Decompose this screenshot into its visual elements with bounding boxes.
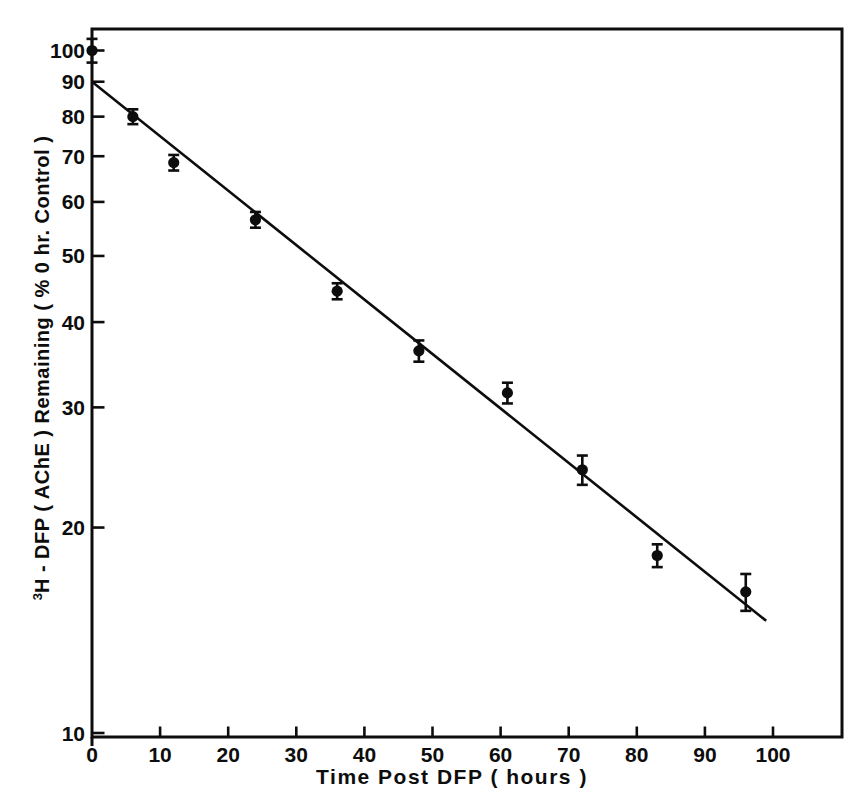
data-point-marker: [332, 286, 343, 297]
data-point-marker: [86, 45, 97, 56]
y-tick-label: 40: [62, 311, 85, 334]
x-tick-label: 20: [217, 743, 240, 766]
data-point-marker: [127, 111, 138, 122]
chart-svg: 1009080706050403020100102030405060708090…: [0, 0, 868, 809]
y-tick-label: 100: [50, 39, 85, 62]
x-tick-label: 80: [625, 743, 648, 766]
data-point-marker: [168, 157, 179, 168]
y-tick-label: 90: [62, 70, 85, 93]
y-tick-label: 60: [62, 190, 85, 213]
x-tick-label: 40: [353, 743, 376, 766]
y-tick-label: 50: [62, 244, 85, 267]
data-point-marker: [250, 214, 261, 225]
data-point-marker: [502, 387, 513, 398]
y-axis-title: 3H - DFP ( AChE ) Remaining ( % 0 hr. Co…: [30, 136, 54, 601]
y-tick-label: 30: [62, 396, 85, 419]
x-tick-label: 10: [148, 743, 171, 766]
y-tick-label: 80: [62, 105, 85, 128]
fit-line: [92, 82, 766, 621]
x-tick-label: 0: [86, 743, 98, 766]
y-tick-label: 10: [62, 722, 85, 745]
x-tick-label: 30: [285, 743, 308, 766]
y-axis-title-text: H - DFP ( AChE ) Remaining ( % 0 hr. Con…: [31, 136, 53, 593]
data-point-marker: [413, 345, 424, 356]
x-axis-title: Time Post DFP ( hours ): [316, 765, 588, 789]
x-tick-label: 90: [693, 743, 716, 766]
data-point-marker: [577, 464, 588, 475]
y-tick-label: 70: [62, 145, 85, 168]
x-tick-label: 50: [421, 743, 444, 766]
x-tick-label: 100: [755, 743, 790, 766]
figure: 1009080706050403020100102030405060708090…: [0, 0, 868, 809]
x-tick-label: 60: [489, 743, 512, 766]
y-tick-label: 20: [62, 516, 85, 539]
data-point-marker: [740, 586, 751, 597]
x-tick-label: 70: [557, 743, 580, 766]
data-point-marker: [652, 550, 663, 561]
y-axis-title-superscript: 3: [30, 593, 45, 600]
